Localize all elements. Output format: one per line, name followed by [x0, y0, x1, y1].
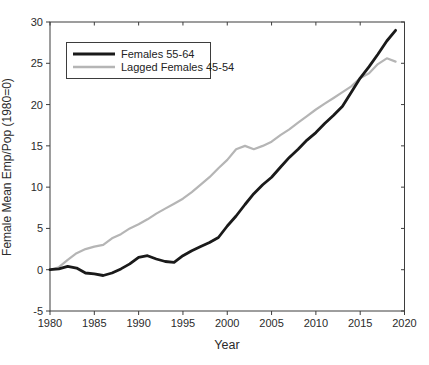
legend-item-lagged-females-45-54: Lagged Females 45-54	[73, 61, 204, 73]
legend: Females 55-64 Lagged Females 45-54	[66, 42, 211, 79]
legend-label-females-55-64: Females 55-64	[121, 48, 194, 60]
x-axis-tick-label-2015: 2015	[348, 317, 372, 329]
y-axis-tick-label-25: 25	[31, 57, 43, 69]
legend-line-sample-females-55-64	[73, 51, 115, 57]
y-axis-tick-label-10: 10	[31, 181, 43, 193]
x-axis-tick-label-2020: 2020	[392, 317, 416, 329]
x-axis-tick-label-2005: 2005	[259, 317, 283, 329]
chart-figure: 198019851990199520002005201020152020-505…	[0, 0, 429, 365]
y-axis-tick-label-5: 5	[37, 222, 43, 234]
x-axis-tick-label-2000: 2000	[215, 317, 239, 329]
legend-label-lagged-females-45-54: Lagged Females 45-54	[121, 61, 234, 73]
y-axis-tick-label--5: -5	[33, 305, 43, 317]
y-axis-tick-label-30: 30	[31, 16, 43, 28]
x-axis-tick-label-1985: 1985	[82, 317, 106, 329]
legend-item-females-55-64: Females 55-64	[73, 48, 204, 60]
x-axis-tick-label-1980: 1980	[38, 317, 62, 329]
legend-line-sample-lagged-females-45-54	[73, 64, 115, 70]
y-axis-tick-label-0: 0	[37, 264, 43, 276]
chart-canvas: 198019851990199520002005201020152020-505…	[0, 0, 429, 365]
x-axis-title: Year	[0, 338, 429, 352]
x-axis-tick-label-1995: 1995	[171, 317, 195, 329]
y-axis-tick-label-15: 15	[31, 140, 43, 152]
x-axis-tick-label-2010: 2010	[304, 317, 328, 329]
y-axis-tick-label-20: 20	[31, 99, 43, 111]
y-axis-title: Female Mean Emp/Pop (1980=0)	[0, 37, 14, 297]
series-line-lagged-females-45-54	[50, 58, 396, 269]
x-axis-tick-label-1990: 1990	[126, 317, 150, 329]
